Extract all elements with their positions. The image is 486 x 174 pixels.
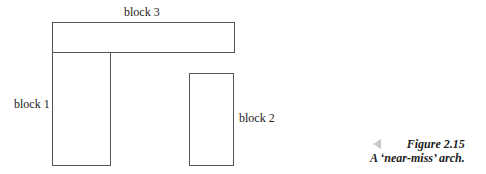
figure-title: A ‘near-miss’ arch.	[370, 151, 465, 165]
block-3	[52, 22, 235, 53]
figure-caption: Figure 2.15 A ‘near-miss’ arch.	[370, 137, 465, 165]
block-2	[189, 73, 234, 166]
block-3-label: block 3	[124, 5, 160, 20]
block-2-label: block 2	[239, 111, 275, 126]
block-1-label: block 1	[14, 97, 50, 112]
figure-number: Figure 2.15	[370, 137, 465, 151]
block-1	[52, 52, 111, 166]
